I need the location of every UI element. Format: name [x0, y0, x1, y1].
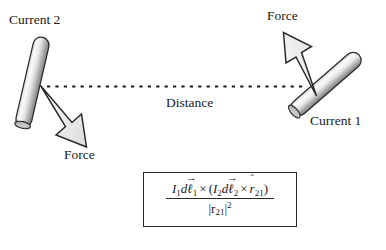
label-force-right: Force [267, 9, 298, 23]
force-arrow-left [41, 86, 87, 148]
figure-canvas: Current 2 Current 1 Distance Force Force… [0, 0, 386, 250]
numerator-close-paren: ) [264, 181, 268, 196]
label-force-left: Force [64, 148, 95, 162]
label-distance: Distance [166, 96, 213, 110]
vector-arrow-2-icon: → [227, 175, 232, 180]
label-current-1: Current 1 [310, 114, 361, 128]
formula-box: I1d→ℓ1×(I2d→ℓ2×ˆr21) |r21|2 [143, 172, 297, 227]
formula-numerator: I1d→ℓ1×(I2d→ℓ2×ˆr21) [166, 182, 274, 199]
denominator-exponent: 2 [227, 200, 232, 210]
hat-accent-icon: ˆ [250, 176, 255, 181]
cross-product-2-icon: × [238, 181, 249, 196]
label-current-2: Current 2 [9, 13, 60, 27]
rod-current-2 [14, 35, 51, 130]
numerator-unit-vector-subscript: 21 [255, 187, 264, 197]
formula-fraction: I1d→ℓ1×(I2d→ℓ2×ˆr21) |r21|2 [166, 182, 274, 218]
numerator-length-2-vector: →ℓ [228, 182, 233, 195]
formula-denominator: |r21|2 [202, 199, 237, 217]
cross-product-1-icon: × [197, 181, 208, 196]
vector-arrow-1-icon: → [186, 175, 191, 180]
numerator-unit-vector: ˆr [250, 182, 255, 195]
numerator-length-1-vector: →ℓ [187, 182, 192, 195]
